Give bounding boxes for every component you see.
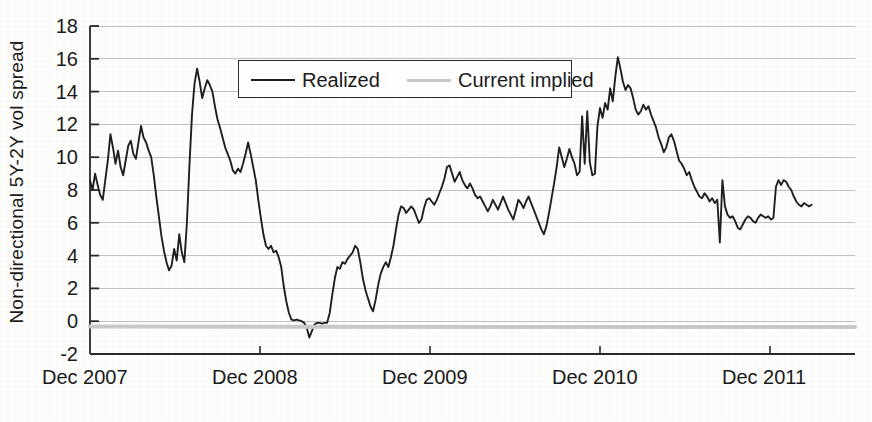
- legend-item-realized[interactable]: Realized: [251, 61, 380, 99]
- legend-swatch-current-implied-icon: [407, 79, 451, 82]
- chart-figure: Non-directional 5Y-2Y vol spread 1816141…: [0, 0, 872, 422]
- legend-item-current-implied[interactable]: Current implied: [407, 61, 594, 99]
- legend-swatch-realized-icon: [251, 79, 295, 81]
- legend-label-realized: Realized: [302, 70, 380, 90]
- legend-label-current-implied: Current implied: [458, 70, 594, 90]
- data-series: [90, 57, 855, 337]
- legend: Realized Current implied: [238, 60, 572, 98]
